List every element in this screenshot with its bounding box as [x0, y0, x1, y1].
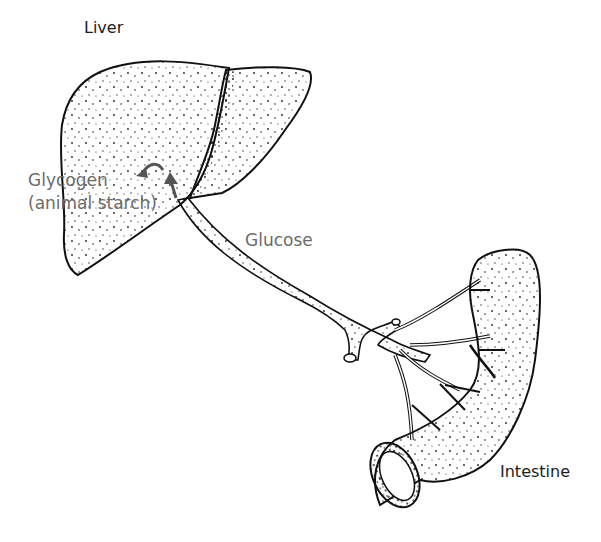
- diagram-canvas: Liver Glycogen (animal starch) Glucose I…: [0, 0, 601, 542]
- liver-label: Liver: [84, 20, 123, 36]
- glucose-label: Glucose: [245, 232, 313, 249]
- diagram-illustration: [0, 0, 601, 542]
- glycogen-note-label: (animal starch): [28, 195, 157, 212]
- glycogen-label: Glycogen: [28, 172, 108, 189]
- intestine-label: Intestine: [500, 464, 570, 480]
